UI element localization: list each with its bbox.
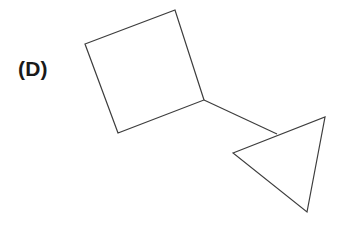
option-label: (D) <box>18 56 48 82</box>
figure-canvas <box>0 0 343 226</box>
